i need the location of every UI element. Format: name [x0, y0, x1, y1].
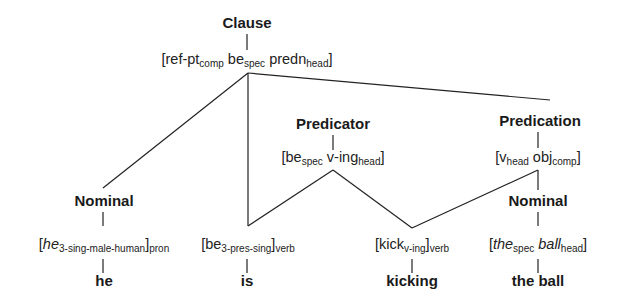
- feature-sub: verb: [275, 243, 294, 254]
- word-the-ball: the ball: [512, 272, 565, 289]
- feature: be: [228, 51, 244, 67]
- feature-sub: spec: [513, 243, 534, 254]
- clause-label: Clause: [222, 14, 271, 31]
- feature: predn: [269, 51, 306, 67]
- clause-features: [ref-ptcomp bespec prednhead]: [161, 51, 332, 69]
- bracket-close: ]: [328, 51, 332, 67]
- nominal-object-features: [thespec ballhead]: [489, 236, 587, 254]
- edge-clause-predication: [248, 73, 550, 100]
- feature: v-ing: [327, 149, 358, 165]
- feature-sub: head: [507, 156, 529, 167]
- feature-sub: head: [561, 243, 583, 254]
- feature-sub: pron: [149, 243, 169, 254]
- predicator-label: Predicator: [296, 115, 370, 132]
- bracket-close: ]: [380, 149, 384, 165]
- edge-predicator-kick: [333, 170, 412, 228]
- nominal-object-label: Nominal: [508, 192, 567, 209]
- feature: obj: [533, 149, 552, 165]
- feature-sub: head: [306, 58, 328, 69]
- feature: ball: [538, 236, 561, 252]
- nominal-subject-label: Nominal: [74, 192, 133, 209]
- word-is: is: [241, 272, 254, 289]
- feature-sub: comp: [199, 58, 223, 69]
- feature-sub: spec: [302, 156, 323, 167]
- word-kicking: kicking: [386, 272, 438, 289]
- predicator-features: [bespec v-inghead]: [281, 149, 384, 167]
- feature-sub: 3-pres-sing: [221, 243, 271, 254]
- feature-sub: comp: [552, 156, 576, 167]
- feature-sub: spec: [244, 58, 265, 69]
- feature-sub: head: [358, 156, 380, 167]
- feature: ref-pt: [166, 51, 200, 67]
- edge-clause-nominal: [103, 73, 248, 188]
- feature-sub: verb: [430, 243, 449, 254]
- nominal-subject-features: [he3-sing-male-human]pron: [39, 236, 169, 254]
- bracket-close: ]: [583, 236, 587, 252]
- feature: kick: [379, 236, 404, 252]
- verb-be-features: [be3-pres-sing]verb: [201, 236, 295, 254]
- feature-sub: 3-sing-male-human: [59, 243, 145, 254]
- feature: be: [286, 149, 302, 165]
- feature: the: [493, 236, 513, 252]
- predication-features: [vhead objcomp]: [495, 149, 580, 167]
- feature: be: [205, 236, 221, 252]
- bracket-close: ]: [577, 149, 581, 165]
- word-he: he: [95, 272, 113, 289]
- predication-label: Predication: [499, 112, 581, 129]
- feature: he: [43, 236, 59, 252]
- edge-predicator-be: [248, 170, 333, 226]
- feature-sub: v-ing: [404, 243, 426, 254]
- verb-kick-features: [kickv-ing]verb: [375, 236, 449, 254]
